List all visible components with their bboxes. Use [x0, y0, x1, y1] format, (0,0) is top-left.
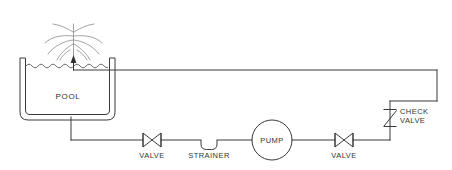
main-process-line	[71, 117, 390, 140]
valve-suction-label: VALVE	[139, 151, 164, 160]
pool-circulation-diagram: POOL CHECK VALVE	[0, 0, 452, 170]
valve-discharge-symbol	[335, 133, 353, 147]
valve-discharge-label: VALVE	[331, 151, 356, 160]
check-valve-label-line2: VALVE	[400, 116, 425, 125]
valve-suction-symbol	[143, 133, 161, 147]
strainer-label: STRAINER	[188, 151, 230, 160]
return-header-pipe	[71, 55, 437, 70]
discharge-riser-pipe	[390, 70, 437, 140]
water-surface-line	[26, 64, 108, 68]
flow-arrow-up-icon	[71, 55, 77, 63]
pool-label: POOL	[55, 92, 80, 101]
pid-canvas: POOL CHECK VALVE	[0, 0, 452, 170]
strainer-symbol	[201, 140, 217, 150]
fountain-spray-icon	[45, 24, 102, 60]
check-valve-label-line1: CHECK	[400, 107, 429, 116]
pump-label: PUMP	[260, 136, 284, 145]
